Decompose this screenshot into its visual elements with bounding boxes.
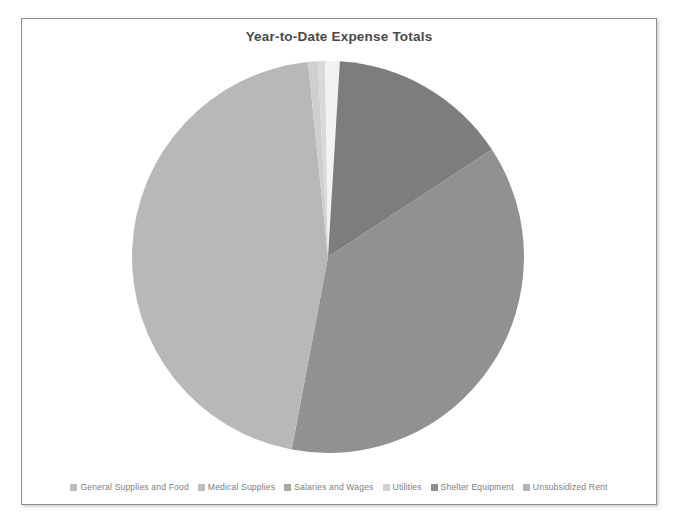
legend-item[interactable]: General Supplies and Food bbox=[70, 482, 188, 492]
legend-label: Unsubsidized Rent bbox=[533, 482, 608, 492]
legend-label: Medical Supplies bbox=[208, 482, 275, 492]
pie-slice-group bbox=[132, 61, 524, 453]
legend-item[interactable]: Unsubsidized Rent bbox=[523, 482, 608, 492]
legend-label: General Supplies and Food bbox=[80, 482, 188, 492]
chart-legend: General Supplies and FoodMedical Supplie… bbox=[22, 482, 656, 492]
legend-swatch-icon bbox=[383, 484, 390, 491]
legend-label: Utilities bbox=[393, 482, 422, 492]
legend-label: Shelter Equipment bbox=[441, 482, 514, 492]
pie-plot-area bbox=[22, 39, 658, 469]
legend-item[interactable]: Utilities bbox=[383, 482, 422, 492]
legend-swatch-icon bbox=[523, 484, 530, 491]
legend-item[interactable]: Shelter Equipment bbox=[431, 482, 514, 492]
legend-swatch-icon bbox=[431, 484, 438, 491]
legend-item[interactable]: Salaries and Wages bbox=[284, 482, 373, 492]
legend-label: Salaries and Wages bbox=[294, 482, 373, 492]
legend-swatch-icon bbox=[70, 484, 77, 491]
pie-chart bbox=[128, 57, 528, 457]
legend-swatch-icon bbox=[284, 484, 291, 491]
legend-item[interactable]: Medical Supplies bbox=[198, 482, 275, 492]
chart-frame: Year-to-Date Expense Totals General Supp… bbox=[21, 18, 657, 505]
screenshot-canvas: Year-to-Date Expense Totals General Supp… bbox=[0, 0, 681, 529]
pie-slice[interactable] bbox=[132, 62, 328, 450]
legend-swatch-icon bbox=[198, 484, 205, 491]
